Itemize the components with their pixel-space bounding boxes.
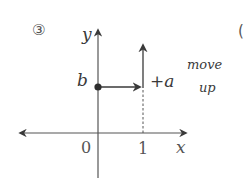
x-tick-1-label: 1 <box>138 141 148 157</box>
y-axis-label: y <box>82 26 92 43</box>
x-axis-label: x <box>176 139 186 156</box>
origin-label: 0 <box>81 140 91 156</box>
up-annotation: up <box>199 81 216 94</box>
next-figure-index-partial: ( <box>238 24 244 39</box>
shift-label: +a <box>150 73 174 90</box>
translation-diagram: ③ ( y b +a move up 0 1 x <box>0 0 245 179</box>
point-b-label: b <box>77 72 88 89</box>
point-b-dot <box>94 83 101 90</box>
move-annotation: move <box>187 58 222 71</box>
figure-index-label: ③ <box>32 23 45 38</box>
